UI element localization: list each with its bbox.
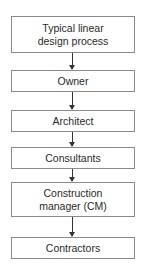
step-label: Architect <box>53 115 94 128</box>
step-box-architect: Architect <box>11 110 135 132</box>
step-label: Typical linear <box>42 22 103 34</box>
step-box-construction-manager: Constructionmanager (CM) <box>11 182 135 217</box>
step-label: design process <box>38 35 109 47</box>
step-box-owner: Owner <box>11 70 135 92</box>
arrow-connector <box>72 132 73 146</box>
step-label: manager (CM) <box>39 200 107 212</box>
arrow-connector <box>72 92 73 109</box>
step-box-contractors: Contractors <box>11 237 135 259</box>
step-label: Owner <box>58 75 89 88</box>
step-box-title: Typical lineardesign process <box>11 16 135 53</box>
step-label: Construction <box>44 187 103 199</box>
step-label: Contractors <box>46 242 100 255</box>
arrow-connector <box>72 169 73 181</box>
step-box-consultants: Consultants <box>11 147 135 169</box>
arrow-connector <box>72 53 73 69</box>
step-label: Consultants <box>45 152 100 165</box>
arrow-connector <box>72 217 73 236</box>
